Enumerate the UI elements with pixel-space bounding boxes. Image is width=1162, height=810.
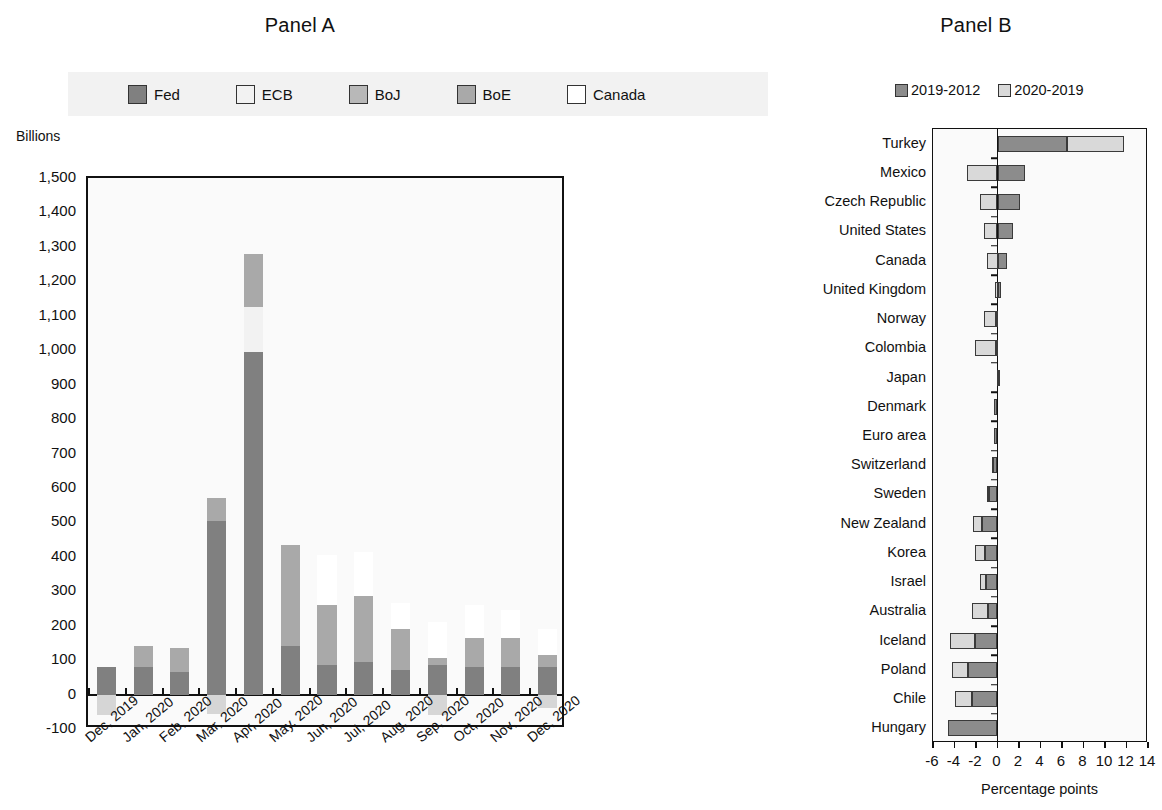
panel-a-bar-segment-canada <box>428 622 447 658</box>
panel-b-segment-2020-2019 <box>997 370 999 386</box>
panel-b-category-label: United States <box>798 222 926 238</box>
panel-a-bar-segment-boe <box>391 629 410 670</box>
panel-a-bar <box>317 555 336 694</box>
panel-a-y-tick-label: 700 <box>0 443 76 460</box>
panel-b-category-label: Turkey <box>798 135 926 151</box>
panel-b-category-label: Chile <box>798 690 926 706</box>
panel-a-bar-segment-boe <box>538 655 557 667</box>
panel-b-y-tick-mark <box>991 421 998 423</box>
panel-b-segment-2019-2012 <box>998 165 1026 181</box>
panel-a-bar-segment-fed <box>465 667 484 695</box>
panel-b-x-tick-mark <box>932 742 934 748</box>
panel-b-category-label: Iceland <box>798 632 926 648</box>
panel-a-bar-segment-boe <box>354 596 373 661</box>
panel-a-y-tick-label: 1,100 <box>0 305 76 322</box>
panel-a-bar-segment-fed <box>97 667 116 695</box>
panel-a-x-tick-mark <box>162 688 164 695</box>
legend-item-canada: Canada <box>567 85 646 104</box>
panel-a-y-tick-label: 1,000 <box>0 340 76 357</box>
panel-b-x-tick-label: 12 <box>1117 752 1134 769</box>
panel-b-category-label: Hungary <box>798 719 926 735</box>
panel-a-y-tick-label: 0 <box>0 684 76 701</box>
panel-b-segment-2019-2012 <box>989 486 998 502</box>
legend-label-2019-2012: 2019-2012 <box>911 82 980 98</box>
panel-a-y-tick-label: 1,300 <box>0 236 76 253</box>
panel-b-segment-2020-2019 <box>984 223 998 239</box>
panel-b-category-label: Colombia <box>798 339 926 355</box>
panel-a-bar-segment-fed <box>391 670 410 694</box>
panel-b-segment-2020-2019 <box>955 691 972 707</box>
legend-swatch-boe <box>457 85 476 104</box>
panel-b-x-tick-label: 2 <box>1014 752 1022 769</box>
panel-a-bar-segment-canada <box>501 610 520 638</box>
panel-b-category-label: Denmark <box>798 398 926 414</box>
panel-a-bar-segment-fed <box>501 667 520 695</box>
panel-a-bar-segment-ecb <box>244 307 263 352</box>
panel-a-bar-segment-fed <box>207 521 226 695</box>
panel-b-category-label: Norway <box>798 310 926 326</box>
panel-b-segment-2019-2012 <box>975 633 998 649</box>
panel-a-y-tick-label: 500 <box>0 512 76 529</box>
panel-a-bar <box>391 603 410 694</box>
panel-b-segment-2019-2012 <box>998 253 1008 269</box>
panel-a-x-tick-mark <box>272 688 274 695</box>
panel-a-plot-area <box>86 176 564 727</box>
panel-b-category-label: Japan <box>798 369 926 385</box>
panel-a-bar-segment-boe <box>428 658 447 665</box>
panel-b-segment-2019-2012 <box>994 428 998 444</box>
panel-b-bar <box>933 516 1147 532</box>
panel-a-x-tick-mark <box>382 688 384 695</box>
panel-b-segment-2019-2012 <box>982 516 997 532</box>
panel-b-title: Panel B <box>790 14 1162 37</box>
panel-a-y-tick-label: 100 <box>0 650 76 667</box>
panel-b-x-tick-mark <box>1083 742 1085 748</box>
panel-a-bar-segment-fed <box>317 665 336 694</box>
panel-b-x-tick-label: -4 <box>947 752 960 769</box>
panel-a-bar <box>134 646 153 694</box>
panel-b-y-tick-mark <box>991 391 998 393</box>
panel-a-bar <box>501 610 520 694</box>
panel-a-x-tick-mark <box>419 688 421 695</box>
legend-label-canada: Canada <box>593 86 646 103</box>
panel-a-bar <box>281 545 300 695</box>
panel-b-bar <box>933 311 1147 327</box>
panel-b-x-tick-label: 14 <box>1139 752 1156 769</box>
panel-b-segment-2020-2019 <box>975 545 985 561</box>
legend-label-2020-2019: 2020-2019 <box>1014 82 1083 98</box>
panel-a-bar-segment-boe <box>170 648 189 672</box>
panel-a-x-tick-mark <box>345 688 347 695</box>
panel-b-x-tick-mark <box>954 742 956 748</box>
panel-b-bar <box>933 399 1147 415</box>
panel-b-x-tick-label: 6 <box>1057 752 1065 769</box>
panel-a-bar-segment-fed <box>428 665 447 694</box>
panel-b-plot-area <box>932 128 1147 742</box>
panel-b-x-tick-label: 10 <box>1096 752 1113 769</box>
panel-b-y-tick-mark <box>991 567 998 569</box>
panel-b-segment-2020-2019 <box>984 311 996 327</box>
panel-b-segment-2020-2019 <box>987 486 989 502</box>
legend-label-fed: Fed <box>154 86 180 103</box>
panel-a-bar-segment-boe <box>317 605 336 665</box>
panel-a-x-tick-mark <box>235 688 237 695</box>
panel-b-x-axis-title: Percentage points <box>932 781 1147 797</box>
panel-b-segment-2019-2012 <box>986 574 998 590</box>
panel-b-bar <box>933 194 1147 210</box>
panel-b-segment-2020-2019 <box>987 253 998 269</box>
panel-a-x-tick-mark <box>125 688 127 695</box>
panel-b-x-tick-mark <box>1126 742 1128 748</box>
panel-a-x-tick-mark <box>198 688 200 695</box>
panel-b-segment-2020-2019 <box>980 194 997 210</box>
panel-b-legend: 2019-2012 2020-2019 <box>895 82 1102 98</box>
panel-b-segment-2019-2012 <box>994 399 997 415</box>
panel-b-segment-2019-2012 <box>985 545 998 561</box>
legend-swatch-ecb <box>236 85 255 104</box>
panel-a-bar <box>244 254 263 695</box>
panel-a-bar-segment-fed <box>244 352 263 695</box>
panel-b-segment-2020-2019 <box>973 516 983 532</box>
panel-a-bar-segment-boe <box>134 646 153 667</box>
panel-b-category-label: Mexico <box>798 164 926 180</box>
panel-a-y-tick-label: 400 <box>0 546 76 563</box>
panel-a-bar <box>170 648 189 694</box>
legend-item-ecb: ECB <box>236 85 293 104</box>
panel-b-y-tick-mark <box>991 274 998 276</box>
